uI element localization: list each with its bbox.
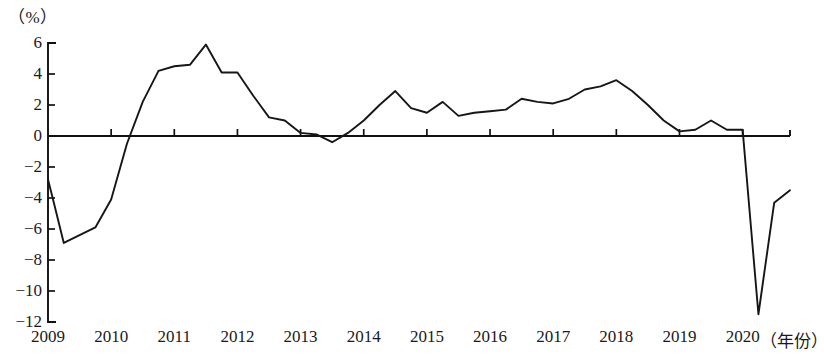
- plot-area: [0, 0, 824, 355]
- chart-container: （%） 6420−2−4−6−8−10−12 20092010201120122…: [0, 0, 824, 355]
- axis-group: [48, 43, 790, 322]
- growth-rate-line: [48, 45, 790, 315]
- x-axis-ticks: [111, 129, 742, 136]
